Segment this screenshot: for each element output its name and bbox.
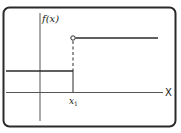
open-circle-point (71, 36, 75, 40)
y-axis-label: f(x) (41, 13, 59, 24)
x1-label-subscript: 1 (74, 100, 78, 107)
frame (4, 8, 176, 127)
x-axis-label: X (165, 87, 172, 98)
step-function-diagram: f(x) X x1 (0, 0, 181, 133)
